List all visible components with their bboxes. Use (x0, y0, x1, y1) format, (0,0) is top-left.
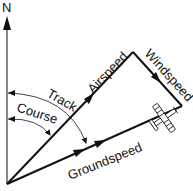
north-arrow-icon (3, 16, 11, 30)
groundspeed-arrow-icon-2 (94, 140, 106, 148)
wind-triangle-diagram: N Airspeed Windspeed Groundspeed Track C… (0, 0, 193, 191)
airspeed-label: Airspeed (84, 49, 130, 96)
windspeed-label: Windspeed (142, 46, 193, 104)
north-axis (3, 16, 11, 184)
groundspeed-label: Groundspeed (66, 139, 145, 182)
north-label: N (2, 0, 11, 15)
groundspeed-arrow-icon-1 (73, 149, 85, 157)
